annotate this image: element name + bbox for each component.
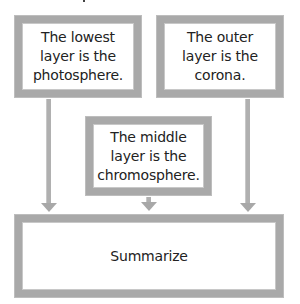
arrow-down-icon bbox=[41, 203, 57, 212]
connector-lowest-to-summary bbox=[46, 99, 51, 204]
connector-outer-to-summary bbox=[245, 99, 250, 204]
arrow-down-icon bbox=[240, 203, 256, 212]
box-outer-layer: The outer layer is the corona. bbox=[157, 16, 283, 97]
arrow-down-icon bbox=[141, 202, 157, 211]
box-middle-layer: The middle layer is the chromosphere. bbox=[86, 117, 211, 195]
box-summarize-text: Summarize bbox=[110, 247, 187, 266]
box-lowest-layer: The lowest layer is the photosphere. bbox=[15, 16, 141, 97]
box-middle-layer-text: The middle layer is the chromosphere. bbox=[97, 128, 201, 185]
box-lowest-layer-text: The lowest layer is the photosphere. bbox=[28, 28, 128, 85]
box-summarize: Summarize bbox=[15, 215, 283, 297]
box-outer-layer-text: The outer layer is the corona. bbox=[168, 28, 272, 85]
cropped-text-fragment bbox=[83, 0, 85, 2]
